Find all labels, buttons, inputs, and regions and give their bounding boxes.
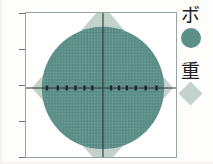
chart-figure: ボ 重 <box>0 0 213 164</box>
legend-entry-diamond[interactable]: 重 <box>181 60 211 102</box>
plot-area <box>25 12 177 158</box>
legend-swatch-diamond-icon <box>178 81 202 105</box>
chart-legend: ボ 重 <box>181 4 213 120</box>
scan-edge-left <box>0 0 3 164</box>
scan-edge-bottom <box>0 161 213 164</box>
legend-entry-circle[interactable]: ボ <box>181 4 211 48</box>
legend-swatch-circle-icon <box>181 28 201 48</box>
legend-label-diamond: 重 <box>181 60 211 82</box>
legend-label-circle: ボ <box>181 4 211 26</box>
series-svg <box>26 13 176 157</box>
series-layer <box>26 13 176 157</box>
